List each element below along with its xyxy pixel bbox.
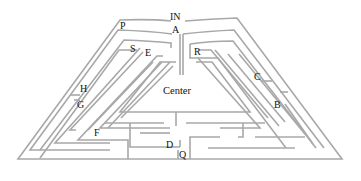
- label-e: E: [145, 47, 151, 58]
- maze-diagram: IN A P S E R H G C B F D Q Center: [0, 0, 361, 181]
- label-q: Q: [179, 149, 187, 160]
- label-center: Center: [163, 85, 191, 96]
- b-diag: [285, 104, 313, 144]
- outer-wall-right: [185, 18, 342, 159]
- label-entrance: IN: [170, 11, 181, 22]
- label-a: A: [172, 24, 180, 35]
- left-diag-6: [108, 62, 170, 128]
- left-diag-5: [100, 62, 170, 128]
- label-r: R: [194, 46, 201, 57]
- label-s: S: [130, 43, 136, 54]
- bottom-row-right-2: [238, 123, 243, 137]
- maze-labels: IN A P S E R H G C B F D Q Center: [77, 11, 281, 160]
- label-h: H: [80, 83, 87, 94]
- label-f: F: [94, 127, 100, 138]
- label-d: D: [166, 139, 173, 150]
- label-b: B: [274, 99, 281, 110]
- label-p: P: [120, 20, 126, 31]
- label-g: G: [77, 99, 84, 110]
- label-c: C: [254, 71, 261, 82]
